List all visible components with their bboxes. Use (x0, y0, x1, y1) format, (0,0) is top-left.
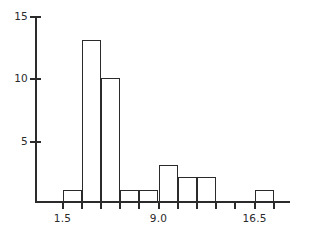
x-tick-label: 1.5 (41, 212, 85, 224)
histogram-bar (159, 165, 178, 202)
x-tick-mark (138, 201, 140, 209)
x-tick-mark (273, 201, 275, 209)
plot-area: 1.59.016.5 (0, 0, 320, 235)
x-tick-mark (234, 201, 236, 209)
histogram-bar (255, 190, 274, 202)
x-tick-mark (215, 201, 217, 209)
histogram-bar (178, 177, 197, 202)
x-tick-label: 16.5 (233, 212, 277, 224)
histogram-bar (101, 78, 120, 203)
x-tick-mark (196, 201, 198, 209)
histogram-bar (120, 190, 139, 202)
x-tick-mark (81, 201, 83, 209)
x-tick-mark (254, 201, 256, 209)
x-tick-mark (62, 201, 64, 209)
x-tick-mark (100, 201, 102, 209)
histogram-bar (82, 40, 101, 202)
histogram-chart: 15 10 5 1.59.016.5 (0, 0, 320, 235)
x-tick-mark (177, 201, 179, 209)
histogram-bar (63, 190, 82, 202)
histogram-bar (139, 190, 158, 202)
x-tick-mark (158, 201, 160, 209)
x-tick-mark (119, 201, 121, 209)
x-tick-label: 9.0 (137, 212, 181, 224)
histogram-bar (197, 177, 216, 202)
